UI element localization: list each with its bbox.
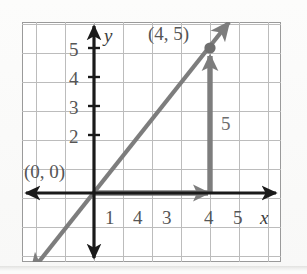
graph-area: y x 5 4 3 2 1 4 3 4 5 (0, 0) (4, 5) 5 xyxy=(22,22,281,262)
y-axis-label: y xyxy=(104,26,112,45)
y-tick-label-3: 3 xyxy=(69,98,79,117)
point-marker-4-5 xyxy=(204,42,215,53)
x-axis-label: x xyxy=(260,208,268,227)
x-tick-label-2: 4 xyxy=(133,208,143,227)
x-tick-label-4: 4 xyxy=(204,208,214,227)
figure-root: y x 5 4 3 2 1 4 3 4 5 (0, 0) (4, 5) 5 xyxy=(0,0,307,274)
paper-shadow xyxy=(0,266,307,271)
y-tick-label-4: 4 xyxy=(69,69,79,88)
origin-point-label: (0, 0) xyxy=(24,162,65,181)
rise-value-label: 5 xyxy=(221,114,231,133)
y-tick-label-5: 5 xyxy=(69,40,79,59)
point-label-4-5: (4, 5) xyxy=(148,24,189,43)
x-tick-label-5: 5 xyxy=(233,208,243,227)
plot-line-y-equals-1.25x xyxy=(31,22,229,262)
x-tick-label-1: 1 xyxy=(105,208,115,227)
x-tick-label-3: 3 xyxy=(162,208,172,227)
y-tick-label-2: 2 xyxy=(69,127,79,146)
